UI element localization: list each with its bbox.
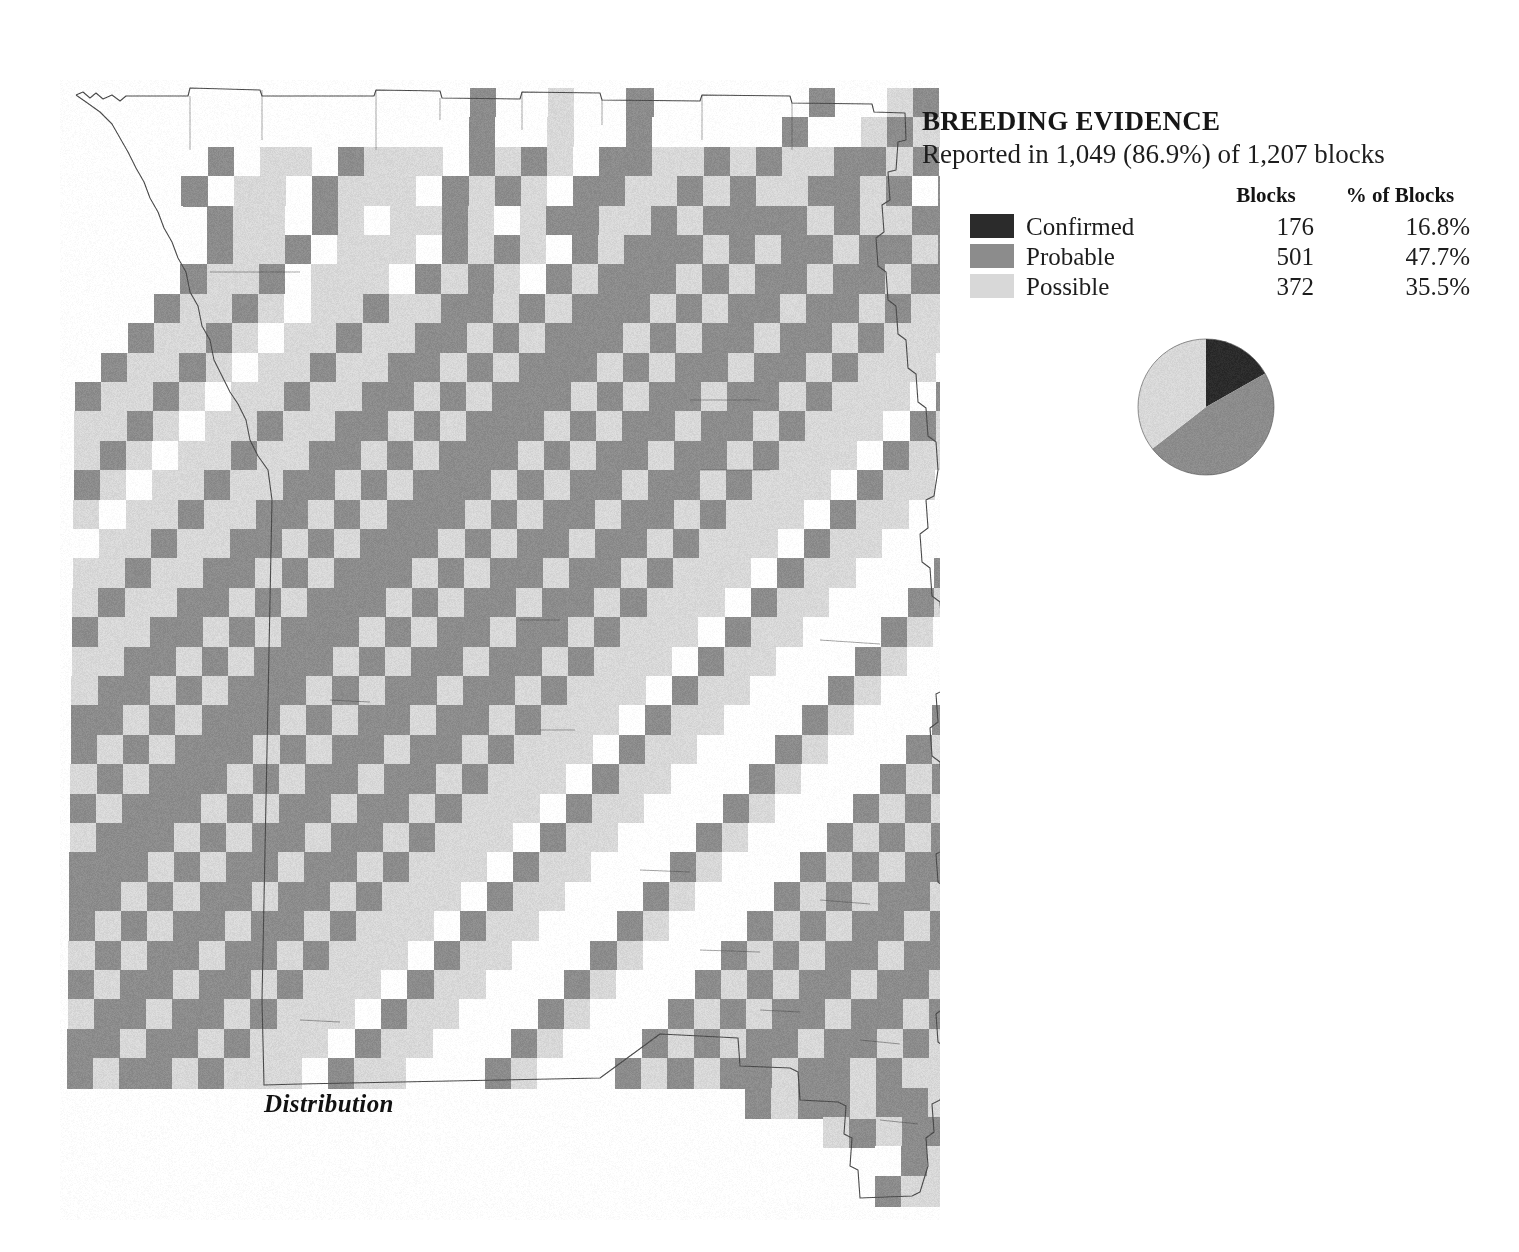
legend-header-percent: % of Blocks	[1314, 183, 1470, 212]
map-grid-canvas	[0, 0, 940, 1252]
legend-percent-probable: 47.7%	[1314, 242, 1470, 272]
pie-chart-canvas	[1136, 337, 1276, 477]
legend-label-cell: Confirmed	[970, 212, 1208, 242]
legend-blocks-possible: 372	[1208, 272, 1314, 302]
possible-swatch-icon	[970, 274, 1014, 298]
legend-header-blank	[970, 183, 1208, 212]
distribution-map	[0, 0, 940, 1252]
legend-blocks-probable: 501	[1208, 242, 1314, 272]
legend-title: BREEDING EVIDENCE	[922, 106, 1482, 136]
legend-label-probable: Probable	[1026, 243, 1115, 271]
legend-row-probable: Probable 501 47.7%	[970, 242, 1470, 272]
probable-swatch-icon	[970, 244, 1014, 268]
map-caption: Distribution	[264, 1090, 394, 1118]
legend-subtitle: Reported in 1,049 (86.9%) of 1,207 block…	[922, 139, 1482, 171]
confirmed-swatch-icon	[970, 214, 1014, 238]
map-page: BREEDING EVIDENCE Reported in 1,049 (86.…	[0, 0, 1519, 1252]
legend-label-confirmed: Confirmed	[1026, 213, 1134, 241]
legend-row-possible: Possible 372 35.5%	[970, 272, 1470, 302]
legend-table: Blocks % of Blocks Confirmed 176 16.8% P…	[970, 183, 1470, 302]
legend-row-confirmed: Confirmed 176 16.8%	[970, 212, 1470, 242]
legend-header-row: Blocks % of Blocks	[970, 183, 1470, 212]
legend-percent-confirmed: 16.8%	[1314, 212, 1470, 242]
legend-label-cell: Possible	[970, 272, 1208, 302]
breeding-evidence-legend: BREEDING EVIDENCE Reported in 1,049 (86.…	[922, 106, 1482, 302]
legend-percent-possible: 35.5%	[1314, 272, 1470, 302]
legend-label-possible: Possible	[1026, 273, 1109, 301]
breeding-evidence-pie-chart	[1136, 337, 1276, 477]
legend-blocks-confirmed: 176	[1208, 212, 1314, 242]
legend-header-blocks: Blocks	[1208, 183, 1314, 212]
legend-label-cell: Probable	[970, 242, 1208, 272]
